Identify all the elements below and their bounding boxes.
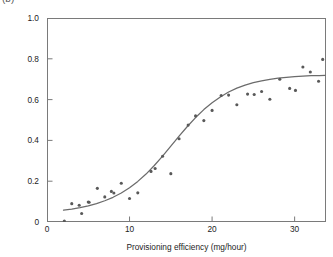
- data-point: [161, 155, 164, 158]
- data-point: [128, 197, 131, 200]
- data-point: [253, 93, 256, 96]
- data-point: [301, 65, 304, 68]
- data-point: [63, 219, 66, 222]
- data-point: [260, 90, 263, 93]
- data-point: [154, 167, 157, 170]
- data-point: [194, 114, 197, 117]
- data-point: [187, 124, 190, 127]
- figure-panel: (b) Sex ratio (proportion that is female…: [0, 0, 333, 257]
- axes-group: [47, 18, 326, 222]
- fit-curve: [64, 75, 326, 210]
- data-point: [112, 191, 115, 194]
- data-point: [96, 187, 99, 190]
- data-point: [78, 204, 81, 207]
- data-point: [103, 195, 106, 198]
- x-axis-title: Provisioning efficiency (mg/hour): [47, 242, 326, 252]
- plot-area: [47, 18, 326, 222]
- data-points-group: [63, 58, 324, 222]
- data-point: [288, 87, 291, 90]
- data-point: [202, 119, 205, 122]
- data-point: [317, 80, 320, 83]
- data-point: [178, 137, 181, 140]
- y-tick-label-1: 0.2: [0, 176, 39, 186]
- data-point: [235, 103, 238, 106]
- y-tick-label-3: 0.6: [0, 95, 39, 105]
- x-tick-label-1: 10: [125, 224, 134, 234]
- data-point: [321, 58, 324, 61]
- data-point: [136, 191, 139, 194]
- panel-letter: (b): [2, 0, 14, 4]
- data-point: [246, 93, 249, 96]
- data-point: [169, 172, 172, 175]
- data-point: [80, 212, 83, 215]
- data-point: [268, 98, 271, 101]
- y-tick-label-4: 0.8: [0, 54, 39, 64]
- data-point: [70, 202, 73, 205]
- data-point: [309, 71, 312, 74]
- data-point: [220, 94, 223, 97]
- data-point: [294, 89, 297, 92]
- y-tick-label-5: 1.0: [0, 13, 39, 23]
- data-point: [227, 94, 230, 97]
- scatter-plot-svg: [47, 18, 326, 222]
- data-point: [88, 201, 91, 204]
- fit-curve-group: [64, 75, 326, 210]
- x-tick-label-3: 30: [290, 224, 299, 234]
- y-tick-label-2: 0.4: [0, 135, 39, 145]
- x-tick-label-2: 20: [207, 224, 216, 234]
- x-tick-label-0: 0: [45, 224, 50, 234]
- data-point: [120, 182, 123, 185]
- data-point: [278, 78, 281, 81]
- data-point: [149, 170, 152, 173]
- y-tick-label-0: 0: [0, 217, 39, 227]
- data-point: [211, 109, 214, 112]
